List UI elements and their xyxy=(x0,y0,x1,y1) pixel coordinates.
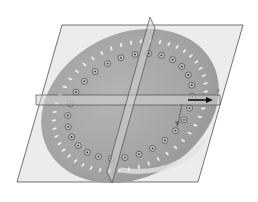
hole xyxy=(92,69,98,75)
hole xyxy=(132,51,138,57)
hole xyxy=(122,155,128,161)
hole xyxy=(75,143,81,149)
hole xyxy=(170,57,176,63)
hole xyxy=(150,145,156,151)
hole xyxy=(189,82,195,88)
hole xyxy=(173,128,179,134)
hole xyxy=(181,117,187,123)
cad-viewport: z xyxy=(0,0,258,202)
hole xyxy=(105,61,111,67)
hole xyxy=(136,151,142,157)
hole xyxy=(69,134,75,140)
hole xyxy=(96,154,102,160)
hole xyxy=(179,63,185,69)
hole xyxy=(118,55,124,61)
diagram-canvas: z xyxy=(0,0,258,202)
hole xyxy=(162,137,168,143)
hole xyxy=(65,113,71,119)
hole xyxy=(187,105,193,111)
hole xyxy=(159,52,165,58)
axis-label: z xyxy=(217,87,220,93)
hole xyxy=(84,149,90,155)
hole xyxy=(185,72,191,78)
hole xyxy=(65,124,71,130)
hole xyxy=(73,89,79,95)
hole xyxy=(81,78,87,84)
